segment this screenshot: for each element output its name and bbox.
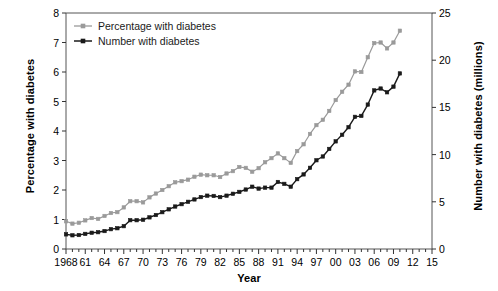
data-point <box>109 227 112 230</box>
data-point <box>141 201 144 204</box>
data-point <box>109 211 112 214</box>
data-point <box>116 227 119 230</box>
data-point <box>103 229 106 232</box>
data-point <box>385 47 388 50</box>
data-point <box>321 118 324 121</box>
data-point <box>96 217 99 220</box>
data-point <box>206 194 209 197</box>
data-point <box>64 220 67 223</box>
data-point <box>373 89 376 92</box>
chart-legend: Percentage with diabetesNumber with diab… <box>74 20 216 47</box>
data-point <box>398 72 401 75</box>
data-point <box>385 91 388 94</box>
data-point <box>392 41 395 44</box>
data-point <box>161 188 164 191</box>
svg-text:91: 91 <box>272 256 284 268</box>
data-point <box>302 143 305 146</box>
data-point <box>315 123 318 126</box>
series-1 <box>64 29 401 225</box>
svg-text:97: 97 <box>311 256 323 268</box>
data-point <box>193 198 196 201</box>
data-point <box>302 173 305 176</box>
svg-text:4: 4 <box>53 125 59 137</box>
data-point <box>193 175 196 178</box>
svg-text:20: 20 <box>439 54 451 66</box>
data-point <box>360 114 363 117</box>
data-point <box>283 182 286 185</box>
data-point <box>129 200 132 203</box>
data-point <box>398 29 401 32</box>
data-point <box>238 165 241 168</box>
svg-text:7: 7 <box>53 37 59 49</box>
data-point <box>167 184 170 187</box>
data-point <box>77 233 80 236</box>
svg-text:70: 70 <box>137 256 149 268</box>
svg-text:73: 73 <box>156 256 168 268</box>
data-point <box>84 232 87 235</box>
data-point <box>129 219 132 222</box>
svg-text:76: 76 <box>176 256 188 268</box>
data-point <box>270 156 273 159</box>
svg-text:09: 09 <box>388 256 400 268</box>
y-axis-right-ticks: 0510152025 <box>432 7 451 255</box>
data-point <box>148 216 151 219</box>
data-point <box>64 233 67 236</box>
data-point <box>225 194 228 197</box>
data-point <box>135 200 138 203</box>
data-point <box>167 208 170 211</box>
diabetes-trend-chart: 0123456780510152025196861646770737679828… <box>0 0 498 291</box>
data-point <box>257 166 260 169</box>
svg-text:3: 3 <box>53 155 59 167</box>
data-point <box>257 187 260 190</box>
svg-text:79: 79 <box>195 256 207 268</box>
data-point <box>283 156 286 159</box>
data-point <box>77 221 80 224</box>
data-point <box>321 155 324 158</box>
data-point <box>218 175 221 178</box>
legend-label: Number with diabetes <box>98 35 200 47</box>
data-point <box>231 169 234 172</box>
svg-text:00: 00 <box>330 256 342 268</box>
data-point <box>199 173 202 176</box>
data-point <box>180 179 183 182</box>
data-point <box>231 192 234 195</box>
svg-text:2: 2 <box>53 184 59 196</box>
data-point <box>154 192 157 195</box>
svg-text:25: 25 <box>439 7 451 19</box>
data-point <box>90 231 93 234</box>
data-point <box>263 161 266 164</box>
svg-text:5: 5 <box>53 96 59 108</box>
data-point <box>199 195 202 198</box>
svg-text:06: 06 <box>368 256 380 268</box>
svg-text:5: 5 <box>439 196 445 208</box>
data-point <box>308 132 311 135</box>
data-point <box>206 174 209 177</box>
data-point <box>392 85 395 88</box>
data-point <box>161 210 164 213</box>
data-point <box>334 140 337 143</box>
data-point <box>347 126 350 129</box>
data-point <box>173 205 176 208</box>
svg-text:61: 61 <box>79 256 91 268</box>
svg-text:03: 03 <box>349 256 361 268</box>
data-point <box>122 224 125 227</box>
data-point <box>366 56 369 59</box>
plot-frame <box>66 13 432 249</box>
svg-text:1: 1 <box>53 214 59 226</box>
y-axis-right-title: Number with diabetes (millions) <box>472 36 484 216</box>
data-point <box>308 166 311 169</box>
data-point <box>173 181 176 184</box>
svg-text:0: 0 <box>439 243 445 255</box>
data-point <box>244 166 247 169</box>
data-point <box>295 177 298 180</box>
data-point <box>366 103 369 106</box>
data-point <box>90 216 93 219</box>
svg-text:15: 15 <box>426 256 438 268</box>
svg-text:85: 85 <box>234 256 246 268</box>
data-point <box>116 210 119 213</box>
data-point <box>373 41 376 44</box>
x-axis-ticks: 1968616467707376798285889194970003060912… <box>54 249 438 268</box>
data-point <box>289 161 292 164</box>
data-point <box>218 195 221 198</box>
data-point <box>225 172 228 175</box>
